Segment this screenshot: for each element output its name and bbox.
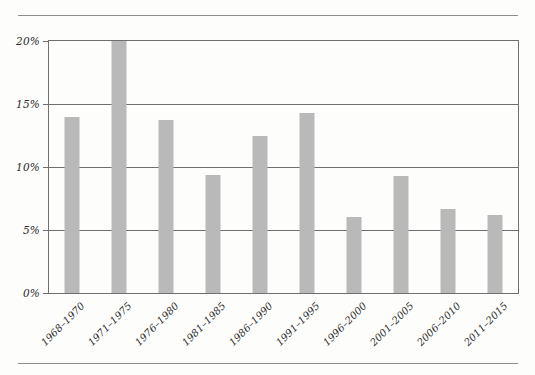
bar[interactable]: [346, 217, 361, 293]
bar[interactable]: [393, 176, 408, 293]
y-axis-tick: [43, 230, 49, 231]
x-axis-label-text: 1986–1990: [227, 300, 275, 348]
y-axis-label: 15%: [16, 98, 40, 110]
y-axis-label: 20%: [16, 35, 40, 47]
x-axis-label: 1996–2000: [321, 300, 369, 348]
y-axis-tick: [43, 104, 49, 105]
x-axis-label: 1976–1980: [133, 300, 181, 348]
x-axis-label-text: 1981–1985: [180, 300, 228, 348]
y-axis-tick: [43, 41, 49, 42]
x-axis-label: 1981–1985: [180, 300, 228, 348]
y-axis-tick: [43, 167, 49, 168]
x-axis-label: 1986–1990: [227, 300, 275, 348]
x-axis-label-text: 1991–1995: [274, 300, 322, 348]
bar[interactable]: [65, 117, 80, 293]
bar[interactable]: [253, 136, 268, 294]
bar[interactable]: [159, 120, 174, 293]
x-axis-label: 2001–2005: [368, 300, 416, 348]
x-axis-label: 2006–2010: [414, 300, 462, 348]
bar[interactable]: [299, 113, 314, 293]
x-axis-label-text: 1996–2000: [321, 300, 369, 348]
bar[interactable]: [440, 209, 455, 293]
bar[interactable]: [112, 41, 127, 293]
x-axis-label-text: 1971–1975: [86, 300, 134, 348]
page-rule-top: [18, 15, 518, 16]
x-axis-label-text: 1968–1970: [39, 300, 87, 348]
x-axis-label: 1971–1975: [86, 300, 134, 348]
page-rule-bottom: [18, 363, 518, 364]
bar[interactable]: [487, 215, 502, 293]
figure-container: 0%5%10%15%20% 1968–19701971–19751976–198…: [0, 0, 535, 375]
x-axis-label-text: 2006–2010: [414, 300, 462, 348]
y-axis-tick: [43, 293, 49, 294]
x-axis-label-text: 2011–2015: [461, 300, 509, 348]
plot-area: 0%5%10%15%20%: [48, 40, 519, 294]
y-axis-label: 10%: [16, 161, 40, 173]
bar[interactable]: [206, 175, 221, 293]
x-axis-label: 2011–2015: [461, 300, 509, 348]
x-axis-label-text: 1976–1980: [133, 300, 181, 348]
x-axis-label-text: 2001–2005: [368, 300, 416, 348]
x-axis-label: 1968–1970: [39, 300, 87, 348]
y-axis-label: 0%: [23, 287, 40, 299]
y-axis-label: 5%: [23, 224, 40, 236]
x-axis-label: 1991–1995: [274, 300, 322, 348]
